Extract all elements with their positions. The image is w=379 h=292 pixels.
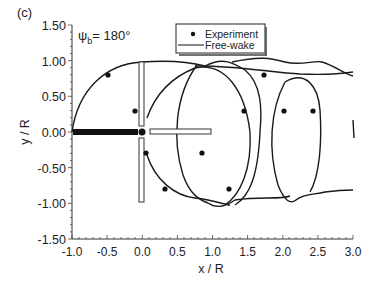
svg-text:0.5: 0.5 (169, 245, 186, 259)
svg-text:0.00: 0.00 (42, 126, 66, 140)
blade-upper (139, 62, 144, 126)
svg-text:0.50: 0.50 (42, 90, 66, 104)
blade-advancing (150, 129, 211, 134)
legend-marker-experiment (191, 32, 195, 36)
svg-text:-1.00: -1.00 (38, 197, 67, 211)
svg-text:0.0: 0.0 (134, 245, 151, 259)
svg-text:1.5: 1.5 (239, 245, 256, 259)
x-ticks (72, 235, 353, 239)
legend-label-free-wake: Free-wake (205, 39, 255, 51)
svg-text:-0.50: -0.50 (38, 162, 67, 176)
panel-label: (c) (17, 5, 32, 20)
svg-text:1.0: 1.0 (204, 245, 221, 259)
svg-text:3.0: 3.0 (345, 245, 362, 259)
x-tick-labels: -1.0 -0.5 0.0 0.5 1.0 1.5 2.0 2.5 3.0 (62, 245, 362, 259)
y-tick-labels: 1.50 1.00 0.50 0.00 -0.50 -1.00 -1.50 (38, 19, 67, 247)
chart: (c) 1.50 1.00 0.50 0.00 (0, 0, 379, 292)
svg-text:-0.5: -0.5 (97, 245, 118, 259)
svg-text:-1.0: -1.0 (62, 245, 83, 259)
svg-text:1.50: 1.50 (42, 19, 66, 33)
blade-retreating (73, 129, 138, 135)
svg-text:2.5: 2.5 (310, 245, 327, 259)
azimuth-annotation: ψb= 180° (78, 28, 130, 46)
svg-text:2.0: 2.0 (274, 245, 291, 259)
rotor-hub (139, 129, 146, 136)
x-axis-label: x / R (198, 262, 224, 276)
y-ticks (68, 25, 72, 239)
blade-lower (139, 138, 144, 202)
legend: Experiment Free-wake (176, 24, 267, 55)
y-axis-label: y / R (18, 119, 32, 145)
svg-text:ψb= 180°: ψb= 180° (78, 28, 130, 46)
svg-text:1.00: 1.00 (42, 55, 66, 69)
